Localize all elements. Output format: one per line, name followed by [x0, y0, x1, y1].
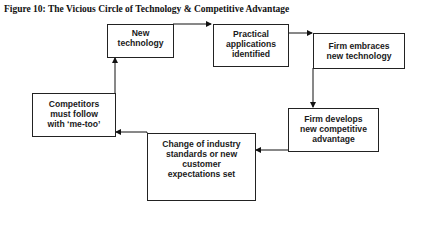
node-label: Practical applications identified [226, 29, 276, 66]
node-label: Firm embraces new technology [327, 41, 392, 68]
arrow-change-to-competitors [116, 132, 147, 133]
node-competitors-follow: Competitors must follow with ‘me-too’ [32, 93, 116, 137]
node-label: Change of industry standards or new cust… [162, 139, 240, 200]
node-practical-applications: Practical applications identified [213, 24, 289, 67]
node-new-technology: New technology [107, 24, 174, 58]
node-label: Firm develops new competitive advantage [300, 114, 367, 151]
node-label: New technology [118, 28, 164, 57]
node-firm-develops: Firm develops new competitive advantage [288, 108, 379, 152]
node-firm-embraces: Firm embraces new technology [313, 33, 405, 69]
node-change-standards: Change of industry standards or new cust… [147, 133, 256, 201]
node-label: Competitors must follow with ‘me-too’ [48, 99, 101, 136]
